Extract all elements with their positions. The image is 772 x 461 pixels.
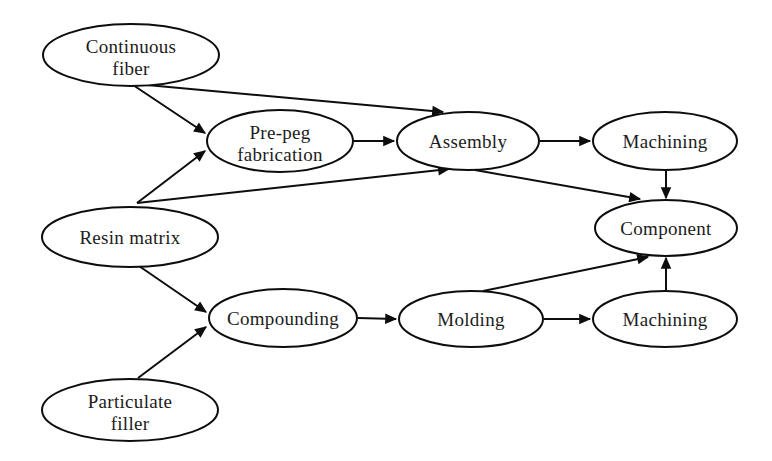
- node-particulate-filler: Particulatefiller: [42, 379, 218, 441]
- node-label-line: fabrication: [237, 144, 323, 165]
- node-label-line: Compounding: [227, 308, 339, 329]
- node-label-line: Assembly: [429, 131, 508, 152]
- pre-peg-fabrication-label: Pre-pegfabrication: [237, 122, 323, 165]
- node-component: Component: [595, 200, 737, 256]
- resin-matrix-label: Resin matrix: [79, 227, 180, 248]
- machining-top-label: Machining: [622, 131, 707, 152]
- node-label-line: Component: [620, 218, 712, 239]
- compounding-label: Compounding: [227, 308, 339, 329]
- process-flow-figure: ContinuousfiberPre-pegfabricationAssembl…: [0, 0, 772, 461]
- edge-assembly-to-component: [475, 170, 640, 199]
- node-label-line: filler: [111, 413, 150, 434]
- edge-continuous-fiber-to-pre-peg-fabrication: [133, 85, 205, 133]
- assembly-label: Assembly: [429, 131, 508, 152]
- node-label-line: Pre-peg: [249, 122, 310, 143]
- node-molding: Molding: [399, 291, 543, 347]
- node-label-line: Continuous: [86, 36, 177, 57]
- node-label-line: fiber: [112, 58, 150, 79]
- node-machining-top: Machining: [593, 112, 737, 170]
- node-resin-matrix: Resin matrix: [42, 207, 218, 267]
- node-label-line: Particulate: [88, 391, 173, 412]
- edge-particulate-filler-to-compounding: [138, 327, 206, 378]
- node-label-line: Machining: [622, 309, 707, 330]
- component-label: Component: [620, 218, 712, 239]
- molding-label: Molding: [437, 309, 505, 330]
- node-pre-peg-fabrication: Pre-pegfabrication: [207, 110, 353, 172]
- edge-molding-to-component: [483, 257, 648, 291]
- node-label-line: Machining: [622, 131, 707, 152]
- node-compounding: Compounding: [209, 289, 357, 347]
- edge-resin-matrix-to-assembly: [137, 169, 449, 203]
- edge-resin-matrix-to-compounding: [139, 266, 206, 312]
- node-assembly: Assembly: [397, 112, 539, 170]
- edge-resin-matrix-to-pre-peg-fabrication: [137, 151, 205, 203]
- node-continuous-fiber: Continuousfiber: [43, 24, 219, 86]
- node-machining-bottom: Machining: [593, 291, 737, 347]
- node-label-line: Resin matrix: [79, 227, 180, 248]
- process-flow-diagram: ContinuousfiberPre-pegfabricationAssembl…: [0, 0, 772, 461]
- edge-continuous-fiber-to-assembly: [136, 84, 443, 112]
- edge-compounding-to-molding: [358, 318, 396, 319]
- machining-bottom-label: Machining: [622, 309, 707, 330]
- node-label-line: Molding: [437, 309, 505, 330]
